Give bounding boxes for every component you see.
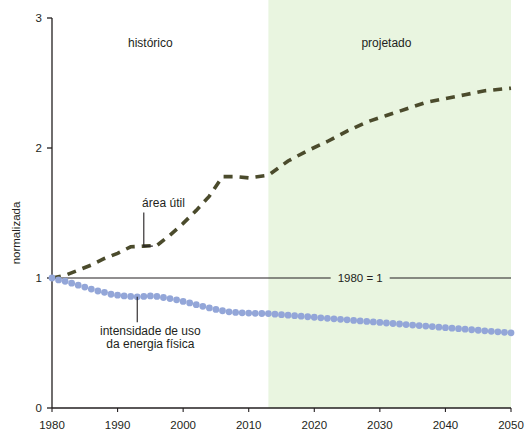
intensidade-label-line1: intensidade de uso (100, 324, 201, 338)
intensidade-data-point (193, 301, 200, 308)
intensidade-data-point (449, 325, 456, 332)
region-label-projetado: projetado (361, 36, 411, 50)
intensidade-data-point (226, 308, 233, 315)
intensidade-data-point (475, 327, 482, 334)
intensidade-data-point (481, 327, 488, 334)
x-tick-label-1990: 1990 (105, 419, 131, 431)
intensidade-data-point (501, 329, 508, 336)
intensidade-data-point (213, 306, 220, 313)
intensidade-data-point (245, 310, 252, 317)
intensidade-data-point (409, 322, 416, 329)
intensidade-data-point (422, 323, 429, 330)
intensidade-data-point (49, 275, 56, 282)
region-band-projetado (268, 0, 511, 408)
x-tick-label-2050: 2050 (498, 419, 524, 431)
intensidade-data-point (127, 293, 134, 300)
y-tick-label-3: 3 (36, 12, 42, 24)
intensidade-data-point (488, 328, 495, 335)
intensidade-data-point (258, 310, 265, 317)
intensidade-label-line2: da energia física (106, 337, 194, 351)
chart-canvas: 0123 19801990200020102020203020402050 no… (0, 0, 525, 447)
intensidade-data-point (337, 316, 344, 323)
intensidade-data-point (88, 286, 95, 293)
x-tick-label-2000: 2000 (170, 419, 196, 431)
intensidade-data-point (390, 320, 397, 327)
intensidade-data-point (350, 317, 357, 324)
intensidade-data-point (468, 326, 475, 333)
x-tick-label-1980: 1980 (39, 419, 65, 431)
intensidade-data-point (331, 315, 338, 322)
intensidade-data-point (239, 309, 246, 316)
intensidade-data-point (416, 322, 423, 329)
intensidade-data-point (429, 323, 436, 330)
intensidade-data-point (278, 311, 285, 318)
intensidade-data-point (298, 313, 305, 320)
intensidade-data-point (442, 324, 449, 331)
intensidade-data-point (344, 316, 351, 323)
intensidade-data-point (403, 321, 410, 328)
intensidade-data-point (147, 293, 154, 300)
intensidade-data-point (219, 307, 226, 314)
x-tick-label-2030: 2030 (367, 419, 393, 431)
intensidade-data-point (81, 284, 88, 291)
intensidade-data-point (317, 314, 324, 321)
intensidade-data-point (160, 294, 167, 301)
y-tick-label-2: 2 (36, 142, 42, 154)
intensidade-data-point (396, 321, 403, 328)
reference-line-label: 1980 = 1 (338, 272, 383, 284)
intensidade-data-point (186, 300, 193, 307)
intensidade-data-point (173, 296, 180, 303)
intensidade-data-point (435, 324, 442, 331)
intensidade-data-point (311, 314, 318, 321)
intensidade-data-point (154, 293, 161, 300)
intensidade-data-point (455, 325, 462, 332)
x-tick-label-2020: 2020 (301, 419, 327, 431)
intensidade-data-point (285, 312, 292, 319)
intensidade-data-point (108, 291, 115, 298)
intensidade-data-point (265, 310, 272, 317)
intensidade-data-point (95, 288, 102, 295)
intensidade-data-point (75, 282, 82, 289)
intensidade-data-point (180, 298, 187, 305)
intensidade-data-point (140, 293, 147, 300)
intensidade-data-point (363, 318, 370, 325)
area-util-label: área útil (142, 196, 185, 210)
chart-container: 0123 19801990200020102020203020402050 no… (0, 0, 525, 447)
intensidade-data-point (68, 280, 75, 287)
intensidade-data-point (508, 329, 515, 336)
region-label-historico: histórico (128, 36, 173, 50)
intensidade-data-point (199, 303, 206, 310)
y-tick-label-0: 0 (36, 402, 42, 414)
y-tick-label-1: 1 (36, 272, 42, 284)
intensidade-data-point (55, 277, 62, 284)
intensidade-data-point (494, 328, 501, 335)
intensidade-data-point (272, 311, 279, 318)
intensidade-data-point (206, 305, 213, 312)
intensidade-data-point (357, 318, 364, 325)
intensidade-data-point (304, 313, 311, 320)
intensidade-data-point (232, 309, 239, 316)
x-tick-label-2010: 2010 (236, 419, 262, 431)
intensidade-data-point (462, 326, 469, 333)
intensidade-data-point (252, 310, 259, 317)
intensidade-data-point (167, 295, 174, 302)
intensidade-data-point (101, 289, 108, 296)
intensidade-data-point (291, 312, 298, 319)
intensidade-data-point (121, 293, 128, 300)
x-tick-label-2040: 2040 (433, 419, 459, 431)
intensidade-data-point (376, 319, 383, 326)
intensidade-data-point (383, 320, 390, 327)
intensidade-data-point (62, 278, 69, 285)
y-axis-title: normalizada (10, 201, 22, 264)
intensidade-data-point (324, 315, 331, 322)
intensidade-data-point (114, 292, 121, 299)
intensidade-data-point (370, 319, 377, 326)
